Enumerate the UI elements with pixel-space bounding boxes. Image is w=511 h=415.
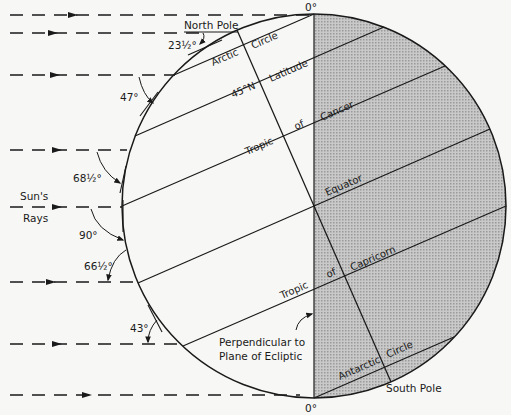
sun-rays-label-1: Sun's — [20, 190, 48, 202]
tangent-lines — [120, 40, 222, 332]
bottom-zero-label: 0° — [305, 402, 317, 414]
angle-arcs — [91, 33, 204, 342]
angle-label-north-pole: 23½° — [168, 39, 197, 51]
angle-label-66-5: 66½° — [84, 260, 113, 272]
angle-label-43: 43° — [130, 322, 149, 334]
south-pole-label: South Pole — [386, 382, 442, 394]
angle-label-47: 47° — [120, 91, 139, 103]
perpendicular-label-2: Plane of Ecliptic — [219, 350, 303, 362]
arctic-label-1: Arctic — [209, 46, 239, 67]
top-zero-label: 0° — [305, 1, 317, 13]
perpendicular-label-1: Perpendicular to — [219, 336, 305, 348]
arctic-label-2: Circle — [249, 30, 279, 51]
cancer-label-1: Tropic — [242, 135, 274, 157]
lat45-label-1: 45°N — [229, 80, 257, 100]
perpendicular-pointer-arrow — [296, 314, 312, 330]
north-pole-label: North Pole — [184, 19, 238, 31]
sun-rays-label-2: Rays — [23, 212, 48, 224]
angle-label-90: 90° — [79, 229, 98, 241]
angle-label-68-5: 68½° — [73, 172, 102, 184]
cancer-label-2: of — [292, 118, 306, 132]
earth-insolation-diagram: 0° 0° North Pole South Pole Sun's Rays P… — [0, 0, 511, 415]
lat45-label-2: Latitude — [267, 57, 309, 84]
